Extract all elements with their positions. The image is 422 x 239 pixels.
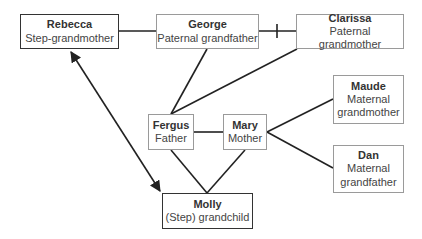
node-name: George: [188, 18, 227, 31]
node-maude: Maude Maternal grandmother: [333, 75, 404, 124]
node-role: Step-grandmother: [25, 32, 114, 45]
node-clarissa: Clarissa Paternal grandmother: [296, 14, 404, 49]
node-name: Dan: [358, 149, 379, 162]
node-george: George Paternal grandfather: [156, 14, 259, 49]
node-role: (Step) grandchild: [166, 211, 250, 224]
node-role: Maternal grandfather: [340, 162, 397, 188]
node-name: Fergus: [153, 119, 190, 132]
node-name: Mary: [232, 119, 258, 132]
node-name: Molly: [193, 198, 221, 211]
node-name: Rebecca: [47, 18, 92, 31]
node-role: Maternal grandmother: [337, 93, 399, 119]
mary-maude-line: [267, 99, 333, 132]
node-molly: Molly (Step) grandchild: [162, 193, 253, 229]
node-role: Mother: [228, 132, 262, 145]
node-dan: Dan Maternal grandfather: [333, 145, 404, 193]
node-name: Maude: [351, 80, 386, 93]
node-role: Paternal grandmother: [297, 25, 403, 51]
node-role: Father: [155, 132, 187, 145]
node-fergus: Fergus Father: [148, 114, 194, 150]
mary-dan-line: [267, 132, 333, 168]
rebecca-molly-double-arrow: [71, 52, 160, 191]
node-name: Clarissa: [329, 12, 372, 25]
node-rebecca: Rebecca Step-grandmother: [20, 14, 119, 49]
mary-molly-line: [207, 150, 245, 193]
node-mary: Mary Mother: [223, 114, 267, 150]
fergus-molly-line: [171, 150, 207, 193]
node-role: Paternal grandfather: [157, 32, 257, 45]
